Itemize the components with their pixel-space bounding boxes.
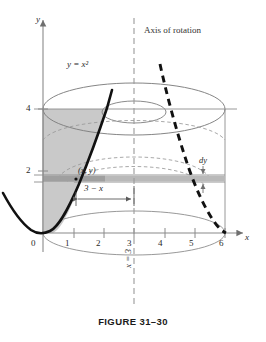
x-tick-label-4: 4 xyxy=(158,238,163,248)
point-coordinate-label: (x, y) xyxy=(78,165,95,175)
x-tick-label-6: 6 xyxy=(219,238,224,248)
figure-caption: FIGURE 31–30 xyxy=(0,316,266,327)
point-marker xyxy=(74,177,77,180)
curve-equation-label: y = x² xyxy=(67,59,88,69)
x-tick-label-5: 5 xyxy=(189,238,194,248)
x-axis-label: x xyxy=(245,232,249,242)
x-tick-label-3: 3 xyxy=(127,238,132,248)
dy-strip-inner xyxy=(43,176,105,182)
x-tick-label-0: 0 xyxy=(31,238,36,248)
x-tick-label-1: 1 xyxy=(65,238,70,248)
y-tick-label-4: 4 xyxy=(26,103,31,113)
y-tick-label-2: 2 xyxy=(26,165,31,175)
dy-thickness-label: dy xyxy=(199,155,207,165)
shell-radius-label: 3 − x xyxy=(84,183,103,193)
y-axis-label: y xyxy=(36,14,40,24)
rotation-line-equation-label: x = 3 xyxy=(123,249,133,268)
figure-graphic xyxy=(0,0,266,342)
x-tick-label-2: 2 xyxy=(96,238,101,248)
figure-container: y x 0 1 2 3 4 5 6 2 4 Axis of rotation y… xyxy=(0,0,266,342)
axis-of-rotation-label: Axis of rotation xyxy=(144,25,201,35)
